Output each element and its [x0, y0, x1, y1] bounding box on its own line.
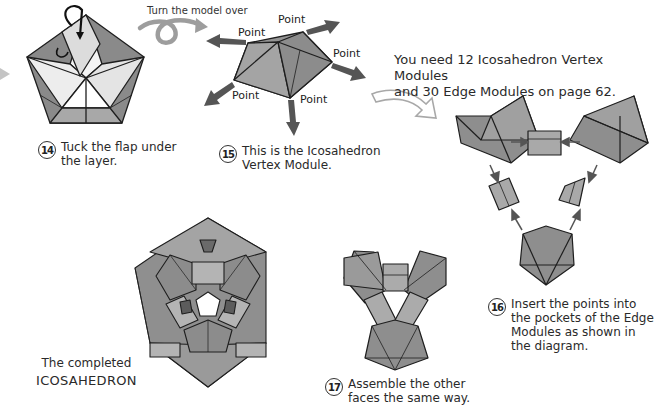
point-arrow-icon: [306, 20, 340, 35]
point-label: Point: [333, 47, 360, 61]
step-14: 14 Tuck the flap under the layer.: [38, 140, 176, 168]
requirement-text: You need 12 Icosahedron Vertex Modules a…: [394, 52, 659, 100]
step-instruction: Assemble the other faces the same way.: [348, 377, 470, 405]
point-label: Point: [300, 93, 327, 107]
step-16: 16 Insert the points into the pockets of…: [488, 297, 654, 353]
incoming-arrow-icon: [0, 68, 10, 80]
completed-caption: The completed ICOSAHEDRON: [36, 354, 137, 390]
point-label: Point: [278, 13, 305, 27]
step-15: 15 This is the Icosahedron Vertex Module…: [219, 144, 381, 172]
step-17: 17 Assemble the other faces the same way…: [325, 377, 470, 405]
step-instruction: Tuck the flap under the layer.: [61, 140, 176, 168]
step16-assembly-diagram: [456, 96, 648, 285]
step-number: 16: [488, 298, 506, 316]
point-arrow-icon: [204, 82, 235, 106]
step-number: 17: [325, 378, 343, 396]
completed-icosahedron-diagram: [135, 218, 266, 387]
point-arrow-icon: [286, 100, 300, 136]
point-arrow-icon: [331, 63, 366, 81]
turn-over-label: Turn the model over: [147, 4, 248, 18]
turn-over-arrow-icon: [140, 20, 198, 43]
step-number: 15: [219, 145, 237, 163]
step-number: 14: [38, 141, 56, 159]
step-instruction: This is the Icosahedron Vertex Module.: [242, 144, 381, 172]
step14-pentagon-diagram: [27, 15, 144, 123]
point-label: Point: [238, 26, 265, 40]
step-instruction: Insert the points into the pockets of th…: [511, 297, 654, 353]
step17-assembly-diagram: [344, 251, 446, 370]
point-label: Point: [232, 89, 259, 103]
